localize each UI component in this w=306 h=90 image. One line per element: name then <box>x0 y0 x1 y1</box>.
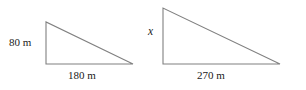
left-triangle-height-label: 80 m <box>9 37 31 48</box>
left-triangle <box>46 22 133 64</box>
right-triangle <box>163 8 280 64</box>
right-triangle-base-label: 270 m <box>197 70 225 81</box>
similar-triangles-figure: 80 m 180 m x 270 m <box>0 0 306 90</box>
triangles-drawing <box>0 0 306 90</box>
left-triangle-base-label: 180 m <box>68 70 96 81</box>
right-triangle-height-label: x <box>148 26 153 38</box>
